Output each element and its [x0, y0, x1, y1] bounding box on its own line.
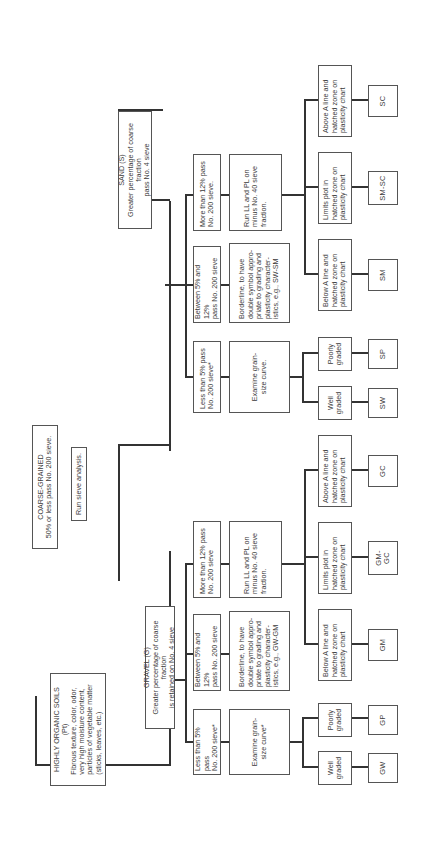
sand-limits-hatched: Limits plot in hatched zone on plasticit…	[318, 152, 352, 224]
connector	[352, 100, 368, 102]
connector	[304, 101, 306, 275]
connector	[290, 742, 302, 744]
symbol-gp: GP	[368, 705, 398, 735]
gravel-action-run-ll-pl: Run LL and PL on minus No. 40 sieve frac…	[229, 521, 282, 598]
connector	[185, 654, 193, 656]
symbol-gm: GM	[368, 629, 398, 661]
connector	[352, 353, 368, 355]
symbol-sw: SW	[368, 388, 398, 418]
gravel-criterion-gt12: More than 12% pass No. 200 sieve	[193, 521, 221, 598]
gravel-description: Greater percentage of coarse fraction is…	[152, 610, 177, 725]
sand-description: Greater percentage of coarse fraction pa…	[127, 115, 152, 225]
sand-well-graded: Well graded	[318, 386, 352, 420]
symbol-sm-sc: SM-SC	[368, 171, 398, 205]
symbol-sp: SP	[368, 339, 398, 369]
connector	[304, 274, 318, 276]
connector	[352, 274, 368, 276]
connector	[304, 470, 318, 472]
sand-criterion-5to12: Between 5% and 12% pass No. 200 sieve	[193, 246, 221, 323]
connector	[118, 445, 170, 447]
connector	[221, 285, 229, 287]
connector	[35, 696, 37, 766]
soil-classification-flowchart: HIGHLY ORGANIC SOILS (Pt) Fibrous textur…	[0, 0, 421, 841]
connector	[221, 564, 229, 566]
gravel-action-borderline: Borderline, to have double symbol appro-…	[229, 611, 290, 691]
connector	[302, 402, 318, 404]
connector	[185, 195, 193, 197]
sand-header-box: SAND (S) Greater percentage of coarse fr…	[118, 111, 152, 229]
connector	[290, 377, 302, 379]
connector	[304, 187, 318, 189]
connector	[185, 564, 193, 566]
connector	[118, 445, 120, 581]
connector	[221, 742, 229, 744]
run-sieve-analysis-box: Run sieve analysis.	[71, 447, 87, 521]
connector	[282, 195, 304, 197]
symbol-gc: GC	[368, 455, 398, 487]
connector	[352, 718, 368, 720]
run-sieve-analysis-label: Run sieve analysis.	[75, 453, 83, 515]
connector	[304, 557, 318, 559]
connector	[169, 201, 171, 451]
gravel-criterion-lt5: Less than 5% pass No. 200 sieve*	[193, 709, 221, 775]
sand-criterion-lt5: Less than 5% pass No. 200 sieve*	[193, 341, 221, 413]
sand-action-run-ll-pl: Run LL and PL on minus No. 40 sieve frac…	[229, 154, 282, 231]
coarse-grained-description: 50% or less pass No. 200 sieve.	[45, 436, 53, 539]
connector	[304, 644, 318, 646]
connector	[302, 767, 318, 769]
connector	[165, 285, 185, 287]
gravel-below-a-line: Below A line and hatched zone on plastic…	[318, 609, 352, 681]
connector	[221, 195, 229, 197]
symbol-gm-gc: GM-GC	[368, 541, 398, 575]
symbol-sm: SM	[368, 259, 398, 291]
connector	[352, 557, 368, 559]
symbol-gw: GW	[368, 753, 398, 783]
gravel-action-grain-size: Examine grain- size curve*	[229, 709, 290, 775]
connector	[282, 564, 304, 566]
sand-action-grain-size: Examine grain- size curve.	[229, 341, 290, 413]
gravel-poorly-graded: Poorly graded	[318, 703, 352, 737]
sand-action-borderline: Borderline, to have double symbol appro-…	[229, 243, 290, 323]
connector	[302, 353, 318, 355]
connector	[352, 187, 368, 189]
highly-organic-description: Fibrous texture, color, odor, very high …	[70, 684, 104, 774]
gravel-criterion-5to12: Between 5% and 12% pass No. 200 sieve	[193, 614, 221, 691]
connector	[221, 377, 229, 379]
gravel-header-box: GRAVEL (G) Greater percentage of coarse …	[145, 606, 175, 729]
gravel-limits-hatched: Limits plot in hatched zone on plasticit…	[318, 522, 352, 594]
connector	[185, 285, 193, 287]
connector	[185, 377, 193, 379]
connector	[352, 402, 368, 404]
sand-below-a-line: Below A line and hatched zone on plastic…	[318, 239, 352, 311]
sand-above-a-line: Above A line and hatched zone on plastic…	[318, 65, 352, 137]
connector	[352, 470, 368, 472]
connector	[221, 654, 229, 656]
sand-poorly-graded: Poorly graded	[318, 337, 352, 371]
connector	[302, 718, 318, 720]
connector	[185, 742, 193, 744]
connector	[185, 195, 187, 378]
gravel-well-graded: Well graded	[318, 751, 352, 785]
symbol-sc: SC	[368, 85, 398, 117]
connector	[302, 353, 304, 403]
coarse-grained-box: COARSE-GRAINED 50% or less pass No. 200 …	[32, 425, 58, 549]
gravel-above-a-line: Above A line and hatched zone on plastic…	[318, 435, 352, 507]
sand-criterion-gt12: More than 12% pass No. 200 sieve.	[193, 154, 221, 231]
connector	[302, 718, 304, 768]
connector	[304, 100, 318, 102]
connector	[352, 767, 368, 769]
connector	[352, 644, 368, 646]
highly-organic-soils-box: HIGHLY ORGANIC SOILS (Pt) Fibrous textur…	[50, 673, 106, 786]
connector	[304, 471, 306, 645]
